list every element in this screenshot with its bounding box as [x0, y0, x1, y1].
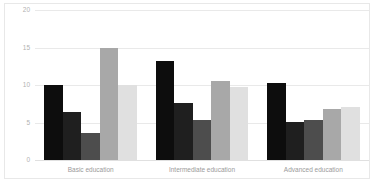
bar[interactable]	[156, 61, 174, 160]
x-axis-label: Intermediate education	[146, 167, 257, 174]
bar-groups: Basic educationIntermediate educationAdv…	[35, 10, 369, 160]
chart-frame: 20 15 10 5 0 Basic educationIntermediate…	[4, 3, 370, 179]
bar[interactable]	[323, 109, 341, 160]
bar[interactable]	[304, 120, 322, 160]
bar[interactable]	[100, 48, 118, 161]
bar[interactable]	[211, 81, 229, 160]
y-tick-20: 20	[23, 7, 30, 14]
bar[interactable]	[81, 133, 99, 160]
x-axis-label: Advanced education	[258, 167, 369, 174]
plot-area: 20 15 10 5 0 Basic educationIntermediate…	[35, 10, 369, 160]
bar[interactable]	[341, 107, 359, 160]
y-tick-10: 10	[23, 82, 30, 89]
bar[interactable]	[174, 103, 192, 160]
bar[interactable]	[230, 87, 248, 160]
gridline-0-baseline	[35, 160, 369, 161]
bar[interactable]	[193, 120, 211, 161]
y-tick-5: 5	[26, 119, 30, 126]
bar[interactable]	[118, 85, 136, 160]
bar[interactable]	[286, 122, 304, 160]
bar-set	[156, 10, 248, 160]
y-tick-15: 15	[23, 44, 30, 51]
y-tick-0: 0	[26, 157, 30, 164]
bar-group: Advanced education	[258, 10, 369, 160]
bar[interactable]	[63, 112, 81, 160]
bar-group: Basic education	[35, 10, 146, 160]
bar[interactable]	[267, 83, 285, 160]
x-axis-label: Basic education	[35, 167, 146, 174]
bar-set	[267, 10, 359, 160]
bar-set	[44, 10, 136, 160]
bar[interactable]	[44, 85, 62, 160]
bar-group: Intermediate education	[146, 10, 257, 160]
